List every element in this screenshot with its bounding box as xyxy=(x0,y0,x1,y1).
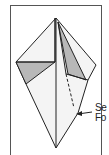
origami-kite-diagram xyxy=(0,0,109,155)
step-label-line-2: Fo xyxy=(95,113,106,123)
